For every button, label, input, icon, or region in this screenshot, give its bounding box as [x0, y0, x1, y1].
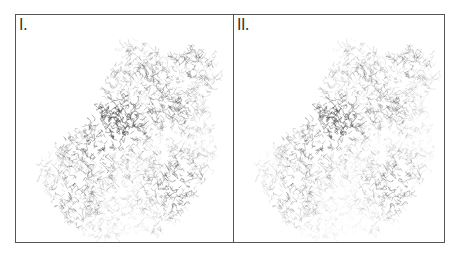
panel-label-i: I. [19, 16, 27, 34]
road-network-map-ii [234, 15, 445, 242]
figure-frame: I. II. [15, 14, 445, 243]
panel-i: I. [16, 15, 233, 242]
road-network-map-i [16, 15, 233, 242]
panel-ii: II. [233, 15, 445, 242]
panel-label-ii: II. [237, 16, 249, 34]
